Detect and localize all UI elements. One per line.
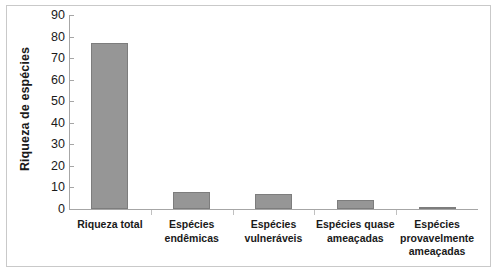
chart-frame: Riqueza de espécies 0102030405060708090 … bbox=[6, 5, 491, 267]
bar[interactable] bbox=[419, 207, 456, 209]
bar[interactable] bbox=[173, 192, 210, 209]
x-tick-mark bbox=[233, 210, 234, 215]
x-axis-line bbox=[69, 209, 478, 210]
y-tick-label: 10 bbox=[27, 181, 65, 194]
x-tick-mark bbox=[396, 210, 397, 215]
x-axis-category-labels: Riqueza totalEspécies endêmicasEspécies … bbox=[69, 218, 478, 264]
y-axis-tick-labels: 0102030405060708090 bbox=[27, 15, 65, 209]
x-tick-label: Espécies vulneráveis bbox=[233, 218, 315, 245]
bar[interactable] bbox=[337, 200, 374, 209]
y-tick-label: 90 bbox=[27, 9, 65, 22]
y-tick-label: 80 bbox=[27, 30, 65, 43]
y-tick-label: 60 bbox=[27, 73, 65, 86]
bar[interactable] bbox=[255, 194, 292, 209]
x-tick-label: Espécies provavelmente ameaçadas bbox=[396, 218, 478, 259]
x-tick-label: Espécies quase ameaçadas bbox=[314, 218, 396, 245]
y-tick-label: 20 bbox=[27, 160, 65, 173]
x-tick-label: Riqueza total bbox=[69, 218, 151, 232]
y-tick-label: 0 bbox=[27, 203, 65, 216]
bar[interactable] bbox=[91, 43, 128, 209]
y-tick-label: 50 bbox=[27, 95, 65, 108]
bar-series bbox=[69, 15, 478, 209]
y-tick-label: 70 bbox=[27, 52, 65, 65]
x-tick-label: Espécies endêmicas bbox=[151, 218, 233, 245]
y-tick-label: 40 bbox=[27, 117, 65, 130]
x-tick-mark bbox=[151, 210, 152, 215]
x-tick-mark bbox=[314, 210, 315, 215]
y-tick-mark bbox=[70, 209, 74, 210]
y-tick-label: 30 bbox=[27, 138, 65, 151]
plot-area: Riqueza de espécies 0102030405060708090 … bbox=[7, 6, 490, 266]
